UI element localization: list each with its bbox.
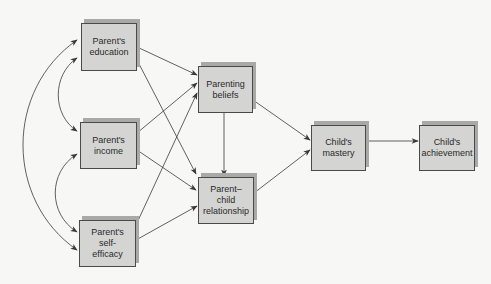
- correlation-education-income: [58, 58, 77, 131]
- node-parent-child-relationship: Parent– child relationship: [198, 177, 254, 224]
- correlation-income-self-efficacy: [55, 154, 77, 232]
- node-childs-achievement: Child's achievement: [419, 125, 475, 171]
- node-label: Parent's income: [80, 122, 137, 169]
- node-parents-self-efficacy: Parent's self- efficacy: [79, 220, 136, 267]
- node-label: Parenting beliefs: [198, 66, 253, 113]
- node-label: Parent's education: [81, 23, 137, 71]
- node-parenting-beliefs: Parenting beliefs: [198, 66, 253, 113]
- node-label: Child's mastery: [311, 125, 366, 171]
- arrow-income-beliefs: [137, 83, 197, 133]
- arrow-education-parent-child: [137, 60, 196, 174]
- node-parents-income: Parent's income: [80, 122, 137, 169]
- arrow-income-parent-child: [137, 150, 196, 190]
- arrow-self-efficacy-parent-child: [136, 206, 197, 240]
- node-label: Child's achievement: [419, 125, 475, 171]
- path-diagram: [0, 0, 491, 284]
- node-childs-mastery: Child's mastery: [311, 125, 366, 171]
- arrow-education-beliefs: [137, 47, 197, 75]
- arrow-parent-child-mastery: [254, 150, 310, 193]
- node-parents-education: Parent's education: [81, 23, 137, 71]
- arrow-beliefs-mastery: [253, 100, 310, 140]
- node-label: Parent's self- efficacy: [79, 220, 136, 267]
- correlation-education-self-efficacy: [23, 40, 77, 250]
- node-label: Parent– child relationship: [198, 177, 254, 224]
